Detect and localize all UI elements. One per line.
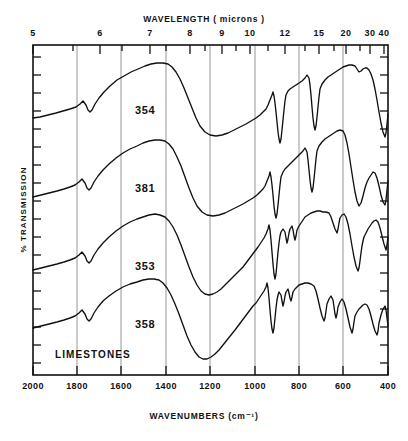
spectrum-curves — [33, 63, 388, 359]
top-axis-tick-label: 40 — [379, 28, 390, 38]
sample-label-381: 381 — [135, 182, 155, 194]
ir-spectra-figure: WAVELENGTH ( microns ) % TRANSMISSION WA… — [0, 0, 408, 441]
bottom-axis-tick-label: 1400 — [155, 381, 177, 391]
spectrum-curve-381 — [33, 130, 388, 218]
bottom-axis-tick-label: 400 — [380, 381, 396, 391]
bottom-axis-tickmarks — [33, 366, 388, 375]
gridlines — [77, 45, 343, 375]
sample-label-354: 354 — [135, 104, 155, 116]
bottom-axis-tick-label: 2000 — [22, 381, 44, 391]
top-axis-tick-label: 10 — [245, 28, 256, 38]
top-axis-tick-label: 5 — [30, 28, 35, 38]
bottom-axis-tick-label: 1000 — [244, 381, 266, 391]
spectrum-curve-358 — [33, 279, 388, 359]
top-axis-title: WAVELENGTH ( microns ) — [0, 14, 408, 24]
sample-label-358: 358 — [135, 318, 155, 330]
bottom-axis-tick-label: 1800 — [66, 381, 88, 391]
bottom-axis-title: WAVENUMBERS (cm⁻¹) — [0, 411, 408, 421]
spectrum-curve-354 — [33, 63, 388, 143]
bottom-axis-tick-label: 600 — [335, 381, 351, 391]
top-axis-tick-label: 6 — [97, 28, 102, 38]
plot-frame — [33, 45, 388, 375]
top-axis-tick-label: 15 — [314, 28, 325, 38]
left-axis-tickmarks — [33, 57, 41, 363]
spectrum-curve-353 — [33, 211, 388, 295]
top-axis-tick-label: 20 — [341, 28, 352, 38]
top-axis-tick-label: 7 — [147, 28, 152, 38]
top-axis-tick-label: 8 — [187, 28, 192, 38]
series-group-note: LIMESTONES — [55, 349, 131, 360]
bottom-axis-tick-label: 1600 — [110, 381, 132, 391]
top-axis-tickmarks — [33, 45, 384, 54]
bottom-axis-tick-label: 800 — [291, 381, 307, 391]
bottom-axis-tick-label: 1200 — [199, 381, 221, 391]
sample-label-353: 353 — [135, 260, 155, 272]
y-axis-title: % TRANSMISSION — [19, 140, 28, 280]
plot-canvas — [0, 0, 408, 441]
top-axis-tick-label: 9 — [219, 28, 224, 38]
top-axis-tick-label: 30 — [365, 28, 376, 38]
top-axis-tick-label: 12 — [280, 28, 291, 38]
